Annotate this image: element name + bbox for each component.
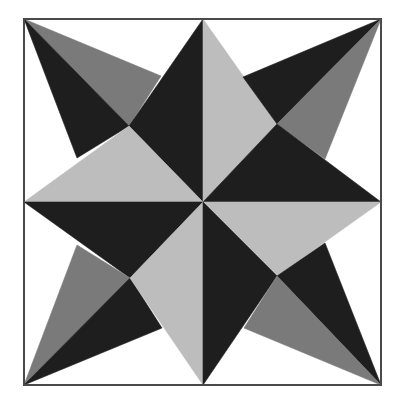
quilt-pieces (24, 19, 381, 385)
star-quilt-diagram: Eight-point star quilt block (0, 0, 400, 409)
